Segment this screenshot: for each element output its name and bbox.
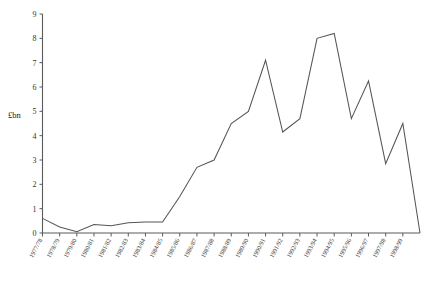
y-tick-group: 0123456789 [33,10,43,238]
x-tick-label: 1984/85 [148,237,164,259]
x-tick-label: 1991/92 [268,237,284,259]
x-tick-label: 1981/82 [96,237,112,259]
x-tick-label: 1987/88 [199,237,215,259]
x-tick-label: 1979/80 [62,237,78,259]
x-tick-label: 1978/79 [45,237,61,259]
chart-container: 0123456789 1977/781978/791979/801980/811… [0,0,426,285]
y-tick-label: 6 [33,83,37,92]
y-axis-label: £bn [8,110,22,120]
data-series-line [43,33,421,233]
x-tick-label: 1983/84 [130,236,146,258]
y-tick-label: 3 [33,156,37,165]
x-tick-label: 1989/90 [233,237,249,259]
y-tick-label: 9 [33,10,37,19]
x-tick-label: 1977/78 [28,237,44,259]
y-tick-label: 7 [33,59,37,68]
y-tick-label: 8 [33,34,37,43]
x-tick-label: 1982/83 [113,237,129,259]
x-tick-label: 1995/96 [336,237,352,259]
x-tick-label: 1994/95 [319,237,335,259]
y-tick-label: 1 [33,205,37,214]
y-tick-label: 5 [33,107,37,116]
x-tick-group: 1977/781978/791979/801980/811981/821982/… [28,233,404,259]
y-tick-label: 2 [33,180,37,189]
x-tick-label: 1985/86 [165,237,181,259]
x-tick-label: 1990/91 [251,237,267,259]
y-tick-label: 0 [33,229,37,238]
x-tick-label: 1986/87 [182,237,198,259]
x-tick-label: 1988/89 [216,237,232,259]
x-tick-label: 1996/97 [354,237,370,259]
line-chart: 0123456789 1977/781978/791979/801980/811… [0,0,426,285]
x-tick-label: 1998/99 [388,237,404,259]
x-tick-label: 1980/81 [79,237,95,259]
y-tick-label: 4 [33,132,37,141]
x-tick-label: 1993/94 [302,236,318,258]
x-tick-label: 1992/93 [285,237,301,259]
x-tick-label: 1997/98 [371,237,387,259]
